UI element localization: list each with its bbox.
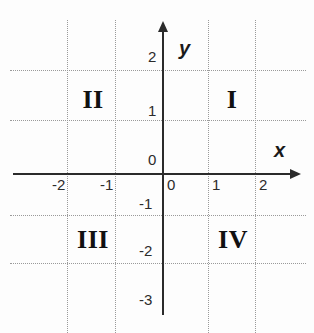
quadrant-label-three: III <box>77 227 109 253</box>
x-tick-label: 0 <box>167 177 175 192</box>
gridline-vertical-x-neg1 <box>115 20 116 333</box>
gridline-horizontal-y-neg2 <box>10 263 306 264</box>
y-tick-label: 0 <box>148 152 156 167</box>
x-tick-label: 1 <box>212 177 220 192</box>
arrow-right-icon <box>290 169 301 179</box>
y-tick-label: 2 <box>148 49 156 64</box>
x-axis-label: x <box>274 140 285 160</box>
gridline-horizontal-y-pos1 <box>10 120 306 121</box>
y-axis-line <box>162 31 164 315</box>
gridline-vertical-x-neg2 <box>67 20 68 333</box>
x-tick-label: -2 <box>52 177 65 192</box>
y-tick-label: -1 <box>139 196 152 211</box>
gridline-vertical-x-pos2 <box>255 20 256 333</box>
x-tick-label: 2 <box>259 177 267 192</box>
quadrant-label-one: I <box>227 87 238 113</box>
gridline-vertical-x-pos1 <box>208 20 209 333</box>
quadrant-label-two: II <box>82 87 103 113</box>
y-tick-label: -2 <box>139 243 152 258</box>
arrow-up-icon <box>158 21 168 32</box>
coordinate-plane: x y -2 -1 0 1 2 2 1 0 -1 -2 -3 I II III … <box>0 0 314 333</box>
y-tick-label: 1 <box>148 103 156 118</box>
x-tick-label: -1 <box>100 177 113 192</box>
quadrant-label-four: IV <box>218 227 248 253</box>
gridline-horizontal-y-pos2 <box>10 70 306 71</box>
x-axis-line <box>13 173 291 175</box>
y-tick-label: -3 <box>139 292 152 307</box>
y-axis-label: y <box>179 38 190 58</box>
gridline-horizontal-y-neg1 <box>10 215 306 216</box>
